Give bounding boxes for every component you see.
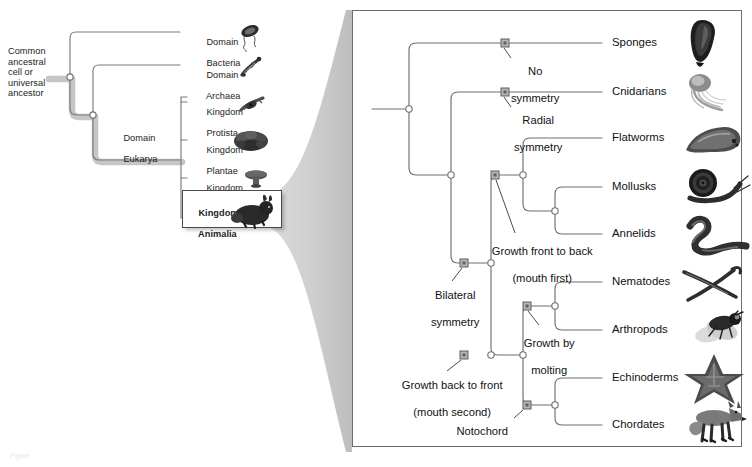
earthworm-icon — [690, 219, 746, 252]
flatworm-icon — [686, 127, 740, 153]
sponge-icon — [691, 20, 715, 67]
snail-icon — [689, 169, 750, 201]
figure-root: Common ancestral cell or universal ances… — [0, 0, 752, 467]
fox-icon — [689, 401, 747, 442]
roundworm-icon — [684, 268, 741, 300]
starfish-icon — [684, 354, 744, 404]
jellyfish-icon — [689, 74, 726, 110]
right-thumbnails-layer — [0, 0, 752, 467]
figure-caption: Figure — [10, 452, 30, 459]
fly-icon — [694, 311, 743, 345]
